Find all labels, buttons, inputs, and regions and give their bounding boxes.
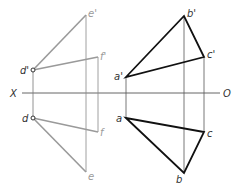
orthographic-projection-diagram: X O d' e' f' d e f a' b' c' a b c [0, 0, 239, 194]
label-e-prime: e' [88, 8, 97, 19]
point-d-prime-marker [31, 68, 35, 72]
axis-label-o: O [223, 88, 231, 99]
label-e: e [88, 171, 94, 182]
label-b-prime: b' [187, 8, 196, 19]
line-d-e [33, 118, 86, 172]
label-d: d [22, 113, 29, 124]
label-c-prime: c' [207, 49, 215, 60]
point-d-marker [31, 116, 35, 120]
axis-label-x: X [9, 88, 18, 99]
label-a-prime: a' [114, 71, 123, 82]
label-f: f [100, 127, 105, 138]
label-a: a [116, 113, 122, 124]
triangle-a-prime-b-prime-c-prime [126, 16, 204, 77]
label-d-prime: d' [20, 65, 29, 76]
label-b: b [176, 174, 182, 185]
label-c: c [207, 128, 213, 139]
label-f-prime: f' [100, 51, 106, 62]
triangle-a-b-c [126, 118, 204, 173]
line-d-f [33, 118, 98, 132]
